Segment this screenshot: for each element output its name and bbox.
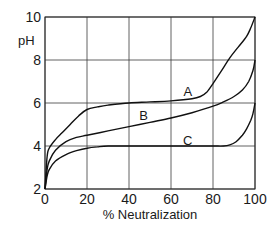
y-tick-label: 2 xyxy=(33,181,41,197)
y-axis-label: pH xyxy=(18,33,35,48)
y-tick-label: 6 xyxy=(33,95,41,111)
x-tick-label: 100 xyxy=(243,191,267,207)
x-tick-label: 60 xyxy=(163,191,179,207)
x-tick-label: 20 xyxy=(79,191,95,207)
y-tick-label: 10 xyxy=(25,9,41,25)
x-tick-label: 0 xyxy=(41,191,49,207)
x-axis-label: % Neutralization xyxy=(103,207,198,222)
curve-labels: ABC xyxy=(139,84,192,147)
curve-b xyxy=(45,60,255,189)
curve-label-b: B xyxy=(139,108,148,123)
titration-chart: 246810 020406080100 ABC pH % Neutralizat… xyxy=(0,0,274,234)
x-tick-label: 80 xyxy=(205,191,221,207)
grid-lines xyxy=(45,17,255,189)
curve-label-c: C xyxy=(183,133,192,148)
x-tick-label: 40 xyxy=(121,191,137,207)
x-axis-tick-labels: 020406080100 xyxy=(41,191,267,207)
y-tick-label: 8 xyxy=(33,52,41,68)
curve-label-a: A xyxy=(183,84,192,99)
y-tick-label: 4 xyxy=(33,138,41,154)
